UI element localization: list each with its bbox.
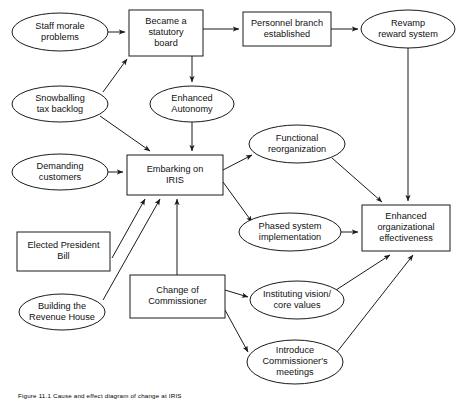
node-label-enhanced_autonomy: EnhancedAutonomy (171, 93, 213, 114)
node-enhanced_autonomy: EnhancedAutonomy (150, 86, 234, 122)
node-demanding_customers: Demandingcustomers (12, 154, 108, 190)
edge-change_commissioner-to-introduce_meetings (225, 310, 248, 352)
node-label-phased_system: Phased systemimplementation (259, 221, 322, 242)
edge-change_commissioner-to-instituting_vision (225, 290, 248, 297)
node-personnel_branch: Personnel branchestablished (243, 12, 331, 46)
edge-snowballing_tax-to-embarking_iris (100, 116, 150, 151)
node-introduce_meetings: IntroduceCommissioner'smeetings (247, 340, 343, 384)
node-label-functional_reorg: Functionalreorganization (268, 133, 326, 154)
node-staff_morale: Staff moraleproblems (12, 13, 108, 51)
node-building_revenue: Building theRevenue House (19, 294, 105, 330)
node-enhanced_org: Enhancedorganizationaleffectiveness (362, 205, 450, 251)
node-functional_reorg: Functionalreorganization (249, 125, 345, 163)
node-snowballing_tax: Snowballingtax backlog (12, 86, 108, 122)
edge-instituting_vision-to-enhanced_org (336, 255, 390, 290)
edge-embarking_iris-to-functional_reorg (223, 155, 252, 170)
node-label-demanding_customers: Demandingcustomers (37, 161, 84, 182)
figure-caption: Figure 11.1 Cause and effect diagram of … (18, 384, 182, 402)
node-instituting_vision: Instituting vision/core values (250, 281, 344, 319)
figure-caption-text: Figure 11.1 Cause and effect diagram of … (18, 392, 182, 399)
node-label-change_commissioner: Change ofCommissioner (148, 285, 207, 306)
edge-functional_reorg-to-enhanced_org (332, 158, 382, 202)
edge-elected_president-to-embarking_iris (112, 199, 145, 258)
node-revamp_reward: Revampreward system (361, 10, 455, 48)
node-label-building_revenue: Building theRevenue House (29, 301, 95, 322)
edge-snowballing_tax-to-statutory_board (103, 59, 127, 92)
node-label-staff_morale: Staff moraleproblems (35, 21, 84, 42)
edge-introduce_meetings-to-enhanced_org (337, 255, 413, 352)
node-elected_president: Elected PresidentBill (17, 232, 110, 271)
node-label-snowballing_tax: Snowballingtax backlog (35, 93, 85, 114)
node-embarking_iris: Embarking onIRIS (127, 155, 223, 195)
node-change_commissioner: Change ofCommissioner (130, 275, 225, 318)
edge-embarking_iris-to-phased_system (223, 182, 252, 222)
node-statutory_board: Became astatutoryboard (129, 10, 203, 56)
node-phased_system: Phased systemimplementation (239, 213, 341, 251)
node-label-enhanced_org: Enhancedorganizationaleffectiveness (377, 211, 434, 243)
